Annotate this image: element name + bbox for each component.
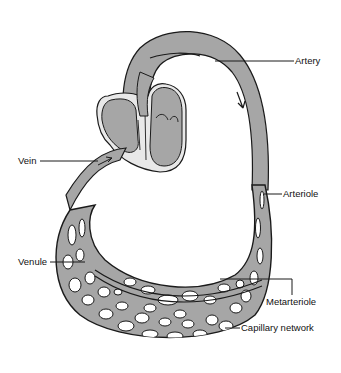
label-vein: Vein — [18, 156, 37, 166]
diagram-graphic — [0, 0, 341, 373]
label-arteriole: Arteriole — [283, 189, 318, 199]
label-artery: Artery — [295, 56, 320, 66]
label-capillary-network: Capillary network — [241, 323, 314, 333]
label-venule: Venule — [18, 257, 47, 267]
vein — [66, 148, 126, 210]
capillary-bed — [56, 185, 272, 340]
circulation-diagram: Artery Vein Arteriole Venule Metarteriol… — [0, 0, 341, 373]
label-metarteriole: Metarteriole — [266, 297, 316, 307]
